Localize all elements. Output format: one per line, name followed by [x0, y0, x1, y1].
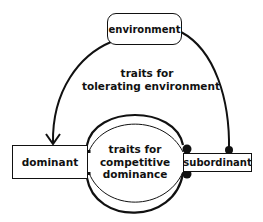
node-dominant: dominant — [12, 145, 88, 179]
node-subordinant: subordinant — [183, 153, 252, 172]
label-line: tolerating environment — [82, 80, 212, 93]
label-line: traits for — [82, 67, 212, 80]
node-subordinant-label: subordinant — [183, 157, 251, 168]
label-line: dominance — [95, 168, 175, 181]
label-line: traits for — [95, 143, 175, 156]
label-tolerating-environment: traits for tolerating environment — [82, 67, 212, 92]
label-line: competitive — [95, 156, 175, 169]
node-environment: environment — [107, 13, 182, 45]
edge-dominant-subordinant-outer-top — [87, 115, 183, 145]
edge-environment-to-dominant — [53, 42, 111, 143]
label-competitive-dominance: traits for competitive dominance — [95, 143, 175, 181]
node-dominant-label: dominant — [22, 156, 78, 168]
node-environment-label: environment — [109, 24, 181, 35]
